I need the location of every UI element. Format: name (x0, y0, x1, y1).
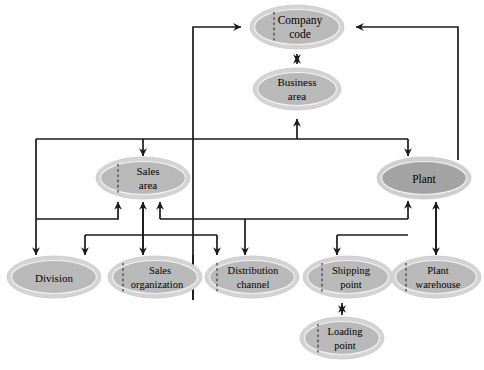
node-division[interactable]: Division (7, 256, 101, 298)
edge-lower-bus (160, 201, 408, 255)
diagram-canvas: Company code Business area Sales area (0, 0, 484, 370)
node-distribution-channel[interactable]: Distribution channel (205, 256, 299, 298)
edge-division-to-sales-area (36, 202, 118, 219)
org-structure-diagram: Company code Business area Sales area (0, 0, 484, 370)
edge-shipping-point-branch-to-plant (337, 235, 408, 255)
node-plant-warehouse[interactable]: Plant warehouse (391, 256, 481, 298)
node-business-area[interactable]: Business area (253, 68, 341, 110)
node-shipping-point[interactable]: Shipping point (303, 256, 393, 298)
node-plant[interactable]: Plant (377, 157, 471, 199)
node-sales-organization[interactable]: Sales organization (108, 256, 202, 298)
node-sales-area[interactable]: Sales area (96, 157, 190, 199)
node-layer: Company code Business area Sales area (7, 5, 481, 359)
edge-plant-to-company-code (356, 27, 458, 160)
edge-secondary-bus (85, 235, 217, 255)
node-loading-point[interactable]: Loading point (300, 317, 384, 359)
node-company-code[interactable]: Company code (250, 5, 344, 49)
